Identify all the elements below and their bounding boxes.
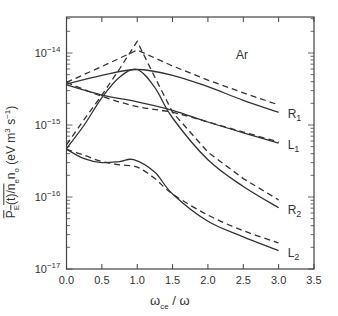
- y-tick-label: 10−17: [35, 261, 61, 275]
- y-tick-label: 10−15: [35, 117, 61, 131]
- x-axis-label: ωce / ω: [150, 293, 190, 311]
- x-tick-label: 3.0: [271, 274, 286, 286]
- series-label-l2: L2: [288, 246, 300, 262]
- x-tick-label: 1.5: [165, 274, 180, 286]
- chart-canvas: 0.00.51.01.52.02.53.03.510−1710−1610−151…: [0, 0, 338, 316]
- data-curves: [67, 41, 279, 250]
- x-tick-label: 3.5: [306, 274, 321, 286]
- curve-r2-dashed: [67, 41, 279, 200]
- x-tick-label: 2.0: [200, 274, 215, 286]
- curve-r2-solid: [67, 69, 279, 208]
- series-label-l1: L1: [288, 138, 300, 154]
- plot-axes: 0.00.51.01.52.02.53.03.510−1710−1610−151…: [35, 17, 322, 286]
- y-tick-label: 10−14: [35, 45, 61, 59]
- x-tick-label: 2.5: [236, 274, 251, 286]
- curve-l2-dashed: [67, 149, 279, 243]
- series-label-r2: R2: [288, 203, 302, 219]
- x-tick-label: 0.0: [59, 274, 74, 286]
- curve-l2-solid: [67, 149, 279, 250]
- y-tick-label: 10−16: [35, 189, 61, 203]
- x-tick-label: 0.5: [94, 274, 109, 286]
- curve-r1-solid: [67, 70, 279, 113]
- x-tick-label: 1.0: [130, 274, 145, 286]
- gas-annotation: Ar: [236, 48, 248, 62]
- series-label-r1: R1: [288, 107, 302, 123]
- series-labels: R1L1R2L2: [288, 107, 302, 261]
- y-axis-label: PE(t)/neno (eV m3 s−1): [2, 62, 22, 262]
